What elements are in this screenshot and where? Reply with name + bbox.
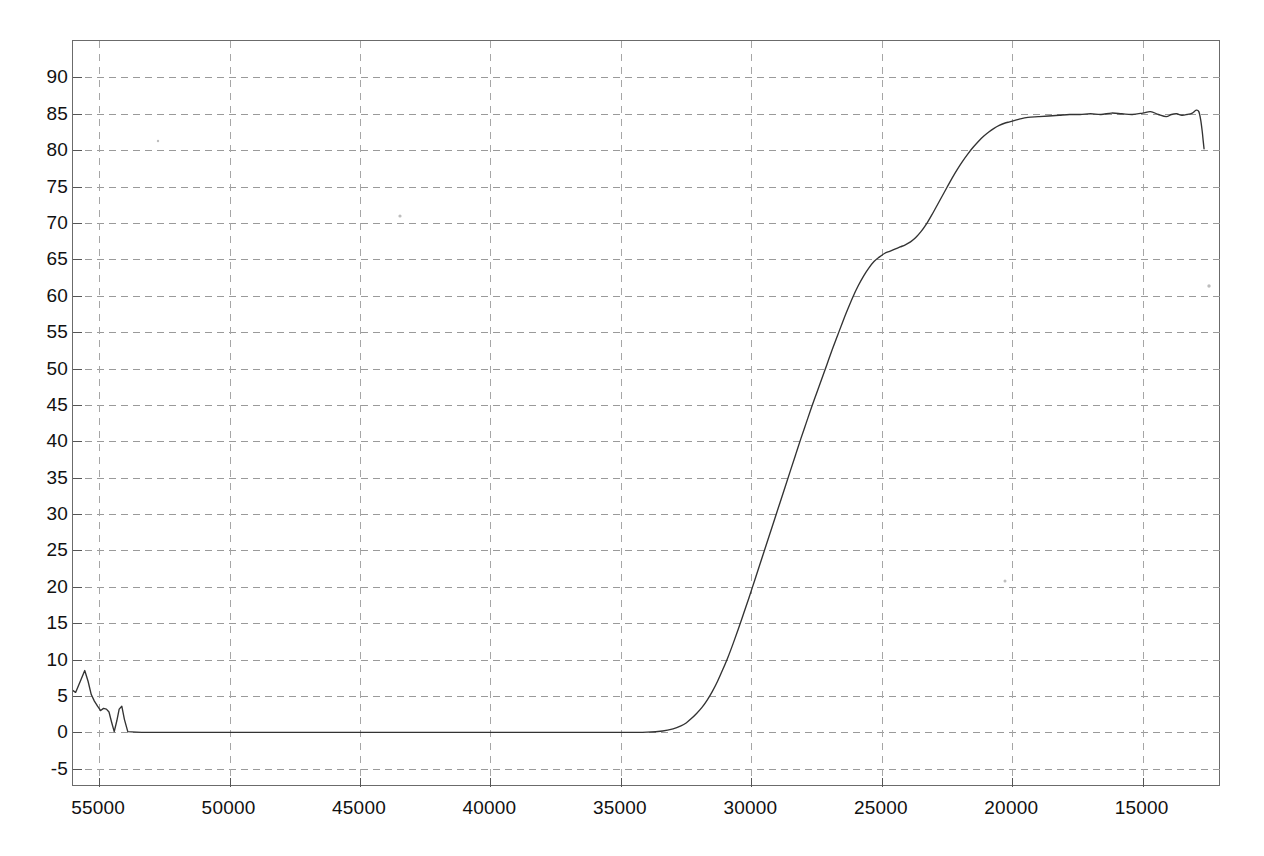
y-axis-tick-label: 10	[6, 650, 68, 669]
plot-area	[72, 40, 1220, 786]
vertical-gridlines	[100, 41, 1144, 787]
chart-container: -5051015202530354045505560657075808590 5…	[0, 0, 1264, 856]
x-axis-tick-label: 35000	[550, 798, 690, 817]
scan-artifacts	[157, 140, 1221, 703]
x-axis-tick-label: 30000	[680, 798, 820, 817]
y-axis-tick-labels: -5051015202530354045505560657075808590	[0, 0, 68, 856]
y-axis-tick-label: 60	[6, 286, 68, 305]
y-axis-tick-label: 15	[6, 613, 68, 632]
y-axis-tick-label: 65	[6, 249, 68, 268]
y-axis-tick-label: 45	[6, 395, 68, 414]
y-axis-tick-label: 5	[6, 686, 68, 705]
y-axis-tick-label: 70	[6, 213, 68, 232]
y-axis-tick-label: 35	[6, 468, 68, 487]
y-axis-tick-label: 20	[6, 577, 68, 596]
x-axis-tick-label: 15000	[1072, 798, 1212, 817]
y-axis-tick-label: 55	[6, 322, 68, 341]
x-axis-tick-label: 25000	[811, 798, 951, 817]
y-axis-tick-label: 85	[6, 104, 68, 123]
x-axis-tick-label: 55000	[28, 798, 168, 817]
y-axis-tick-label: 0	[6, 722, 68, 741]
axis-tickmarks	[73, 78, 1144, 788]
x-axis-tick-label: 50000	[159, 798, 299, 817]
data-series-line	[73, 110, 1204, 732]
x-axis-tick-label: 40000	[419, 798, 559, 817]
x-axis-tick-label: 45000	[289, 798, 429, 817]
y-axis-tick-label: 75	[6, 177, 68, 196]
y-axis-tick-label: 40	[6, 431, 68, 450]
x-axis-tick-label: 20000	[941, 798, 1081, 817]
y-axis-tick-label: 50	[6, 359, 68, 378]
x-axis-tick-labels: 5500050000450004000035000300002500020000…	[0, 798, 1264, 838]
plot-svg	[73, 41, 1221, 787]
horizontal-gridlines	[73, 78, 1221, 770]
y-axis-tick-label: 80	[6, 140, 68, 159]
y-axis-tick-label: 25	[6, 540, 68, 559]
y-axis-tick-label: 30	[6, 504, 68, 523]
y-axis-tick-label: 90	[6, 67, 68, 86]
y-axis-tick-label: -5	[6, 759, 68, 778]
